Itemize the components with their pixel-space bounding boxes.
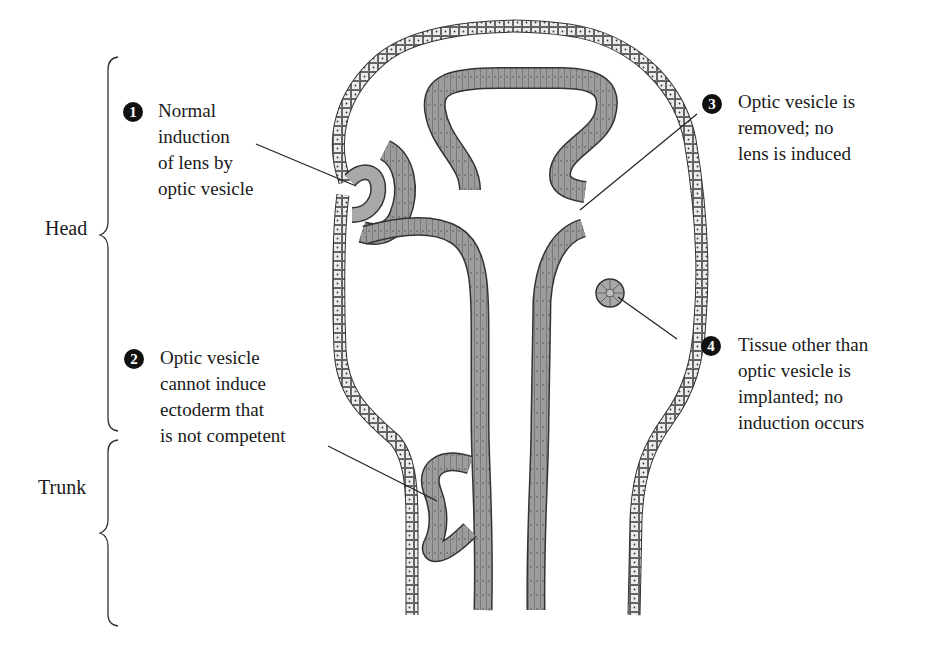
annotation-1-text: Normal induction of lens by optic vesicl… bbox=[158, 98, 254, 202]
embryo-lens-induction-diagram: Head Trunk 1 Normal induction of lens by… bbox=[0, 0, 939, 654]
forebrain bbox=[435, 78, 607, 192]
neural-tube-right bbox=[536, 228, 583, 610]
annotation-3-line-3: lens is induced bbox=[738, 141, 855, 167]
annotation-2-line-4: is not competent bbox=[160, 423, 286, 449]
annotation-3-badge: 3 bbox=[702, 94, 722, 114]
annotation-1-line-3: of lens by bbox=[158, 150, 254, 176]
annotation-2-text: Optic vesicle cannot induce ectoderm tha… bbox=[160, 345, 286, 449]
annotation-1-line-1: Normal bbox=[158, 98, 254, 124]
annotation-1-line-2: induction bbox=[158, 124, 254, 150]
annotation-2-line-2: cannot induce bbox=[160, 371, 286, 397]
head-brace bbox=[100, 57, 118, 431]
leader-line-2 bbox=[328, 446, 437, 501]
optic-vesicle-trunk bbox=[430, 462, 470, 553]
implanted-tissue bbox=[596, 279, 624, 307]
annotation-3-line-1: Optic vesicle is bbox=[738, 89, 855, 115]
annotation-2-line-3: ectoderm that bbox=[160, 397, 286, 423]
annotation-4-badge: 4 bbox=[701, 336, 721, 356]
annotation-4-line-2: optic vesicle is bbox=[738, 358, 868, 384]
annotation-3-line-2: removed; no bbox=[738, 115, 855, 141]
annotation-4-line-4: induction occurs bbox=[738, 410, 868, 436]
annotation-2-badge: 2 bbox=[124, 349, 144, 369]
annotation-4-line-3: implanted; no bbox=[738, 384, 868, 410]
trunk-brace bbox=[100, 440, 118, 626]
head-region-label: Head bbox=[45, 217, 87, 240]
annotation-1-badge: 1 bbox=[123, 102, 143, 122]
annotation-1-line-4: optic vesicle bbox=[158, 176, 254, 202]
leader-line-4 bbox=[618, 297, 677, 339]
annotation-4-text: Tissue other than optic vesicle is impla… bbox=[738, 332, 868, 436]
ectoderm-layer bbox=[338, 26, 702, 615]
annotation-4-line-1: Tissue other than bbox=[738, 332, 868, 358]
annotation-2-line-1: Optic vesicle bbox=[160, 345, 286, 371]
trunk-region-label: Trunk bbox=[38, 476, 86, 499]
annotation-3-text: Optic vesicle is removed; no lens is ind… bbox=[738, 89, 855, 167]
